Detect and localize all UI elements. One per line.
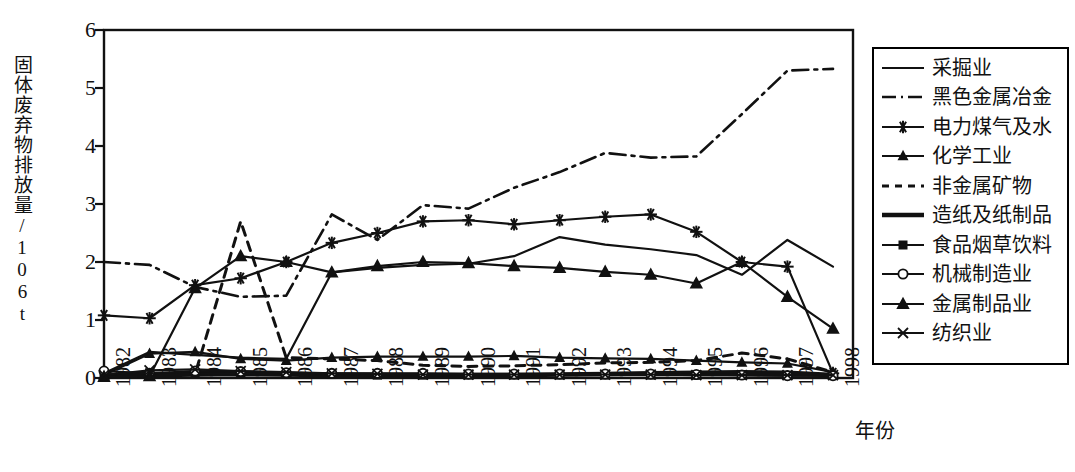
legend-marker	[898, 270, 907, 279]
y-axis-tick-label: 2	[70, 249, 96, 275]
x-axis-tick-label: 1985	[249, 347, 272, 387]
y-axis-label-text: 固体废弃物排放量/10	[9, 55, 36, 281]
x-axis-tick-label: 1982	[112, 347, 135, 387]
x-axis-tick-label: 1988	[385, 347, 408, 387]
legend-item-label: 黑色金属冶金	[932, 87, 1052, 107]
legend-swatch-dotted	[880, 176, 926, 196]
x-axis-tick-label: 1987	[340, 347, 363, 387]
data-point-marker	[738, 358, 746, 366]
legend-item-label: 食品烟草饮料	[932, 235, 1052, 255]
legend-item[interactable]: 采掘业	[880, 53, 1061, 83]
y-axis-tick-label: 4	[70, 133, 96, 159]
y-axis-label: 固体废弃物排放量/106t	[2, 0, 42, 380]
data-point-marker	[191, 348, 199, 356]
x-axis-tick-label: 1996	[750, 347, 773, 387]
data-point-marker	[465, 352, 473, 360]
legend-item-label: 化学工业	[932, 146, 1012, 166]
data-point-marker	[898, 270, 907, 279]
legend-swatch-solid	[880, 58, 926, 78]
x-axis-tick-label: 1997	[795, 347, 818, 387]
legend-swatch-triangle	[880, 294, 926, 314]
legend-item[interactable]: 化学工业	[880, 142, 1061, 172]
data-point-marker	[373, 352, 381, 360]
legend-marker	[899, 152, 907, 160]
data-point-marker	[191, 366, 200, 375]
legend-swatch-solid-thick	[880, 205, 926, 225]
legend-swatch-dashdot	[880, 87, 926, 107]
legend: 采掘业黑色金属冶金电力煤气及水化学工业非金属矿物造纸及纸制品食品烟草饮料机械制造…	[872, 47, 1069, 365]
x-axis-tick-label: 1995	[704, 347, 727, 387]
data-point-marker	[556, 354, 564, 362]
chart-root: 固体废弃物排放量/106t 0123456 198219831984198519…	[0, 0, 1075, 472]
legend-item-label: 金属制品业	[932, 294, 1032, 314]
x-axis-tick-label: 1986	[294, 347, 317, 387]
legend-item[interactable]: 机械制造业	[880, 260, 1061, 290]
y-axis-tick-label: 3	[70, 191, 96, 217]
legend-item-label: 采掘业	[932, 58, 992, 78]
x-axis-tick-label: 1989	[431, 347, 454, 387]
legend-swatch-square	[880, 235, 926, 255]
x-axis-tick-label: 1992	[568, 347, 591, 387]
data-point-marker	[601, 354, 609, 362]
data-point-marker	[510, 352, 518, 360]
legend-item[interactable]: 电力煤气及水	[880, 112, 1061, 142]
y-axis-label-exponent: 6	[11, 281, 33, 303]
x-axis-title: 年份	[855, 415, 895, 444]
legend-item-label: 机械制造业	[932, 264, 1032, 284]
x-axis-tick-label: 1983	[158, 347, 181, 387]
data-point-marker	[419, 352, 427, 360]
legend-marker	[897, 121, 909, 133]
data-point-marker	[899, 152, 907, 160]
legend-item-label: 纺织业	[932, 323, 992, 343]
x-axis-tick-label: 1993	[613, 347, 636, 387]
legend-item[interactable]: 金属制品业	[880, 289, 1061, 319]
data-point-marker	[237, 355, 245, 363]
y-axis-tick-label: 5	[70, 75, 96, 101]
y-axis-label-unit: t	[11, 303, 33, 325]
y-axis-tick-labels: 0123456	[60, 0, 96, 400]
legend-swatch-asterisk	[880, 117, 926, 137]
y-axis-tick-label: 6	[70, 17, 96, 43]
legend-marker	[899, 241, 906, 248]
legend-item[interactable]: 非金属矿物	[880, 171, 1061, 201]
data-point-marker	[146, 349, 154, 357]
data-point-marker	[828, 323, 838, 333]
legend-item[interactable]: 黑色金属冶金	[880, 83, 1061, 113]
legend-item-label: 电力煤气及水	[932, 117, 1052, 137]
legend-swatch-circle	[880, 264, 926, 284]
legend-item-label: 非金属矿物	[932, 176, 1032, 196]
legend-item[interactable]: 造纸及纸制品	[880, 201, 1061, 231]
legend-swatch-x	[880, 323, 926, 343]
legend-item-label: 造纸及纸制品	[932, 205, 1052, 225]
legend-item[interactable]: 食品烟草饮料	[880, 230, 1061, 260]
data-point-marker	[899, 241, 906, 248]
legend-item[interactable]: 纺织业	[880, 319, 1061, 349]
x-axis-tick-label: 1990	[477, 347, 500, 387]
y-axis-tick-label: 0	[70, 365, 96, 391]
x-axis-tick-label: 1984	[203, 347, 226, 387]
x-axis-tick-label: 1994	[659, 347, 682, 387]
y-axis-tick-label: 1	[70, 307, 96, 333]
legend-swatch-triangle-small	[880, 146, 926, 166]
x-axis-tick-label: 1991	[522, 347, 545, 387]
x-axis-tick-label: 1998	[841, 347, 864, 387]
